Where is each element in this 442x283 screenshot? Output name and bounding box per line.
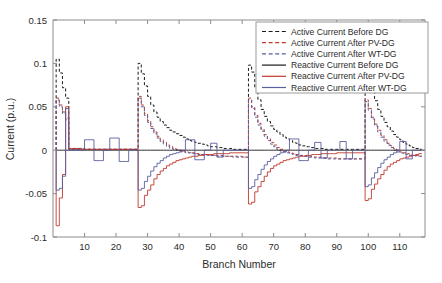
y-tick-label: -0.05: [25, 188, 47, 199]
x-tick-label: 110: [392, 241, 407, 252]
legend-label-5: Reactive Current After WT-DG: [291, 83, 407, 93]
x-tick-label: 10: [79, 241, 90, 252]
x-tick-label: 80: [300, 241, 311, 252]
x-tick-label: 50: [205, 241, 216, 252]
x-tick-label: 30: [142, 241, 153, 252]
legend-label-3: Reactive Current Before DG: [291, 60, 399, 70]
legend-label-4: Reactive Current After PV-DG: [291, 71, 405, 81]
current-vs-branch-plot: 102030405060708090100110-0.1-0.0500.050.…: [0, 0, 442, 283]
y-tick-label: -0.1: [31, 232, 47, 243]
chart-figure: 102030405060708090100110-0.1-0.0500.050.…: [0, 0, 442, 283]
x-tick-label: 20: [111, 241, 122, 252]
x-tick-label: 60: [237, 241, 248, 252]
x-tick-label: 40: [174, 241, 185, 252]
y-tick-label: 0.1: [34, 58, 47, 69]
legend-label-1: Active Current After PV-DG: [291, 38, 395, 48]
legend-label-2: Active Current After WT-DG: [291, 49, 397, 59]
x-tick-label: 70: [268, 241, 279, 252]
series-line-4: [56, 107, 422, 226]
legend-label-0: Active Current Before DG: [291, 27, 389, 37]
y-tick-label: 0.05: [29, 101, 48, 112]
y-axis-title: Current (p.u.): [4, 98, 16, 160]
x-axis-title: Branch Number: [202, 258, 276, 270]
y-tick-label: 0: [42, 145, 47, 156]
x-tick-label: 90: [331, 241, 342, 252]
legend: Active Current Before DGActive Current A…: [256, 22, 428, 93]
y-tick-label: 0.15: [29, 15, 48, 26]
x-tick-label: 100: [360, 241, 376, 252]
